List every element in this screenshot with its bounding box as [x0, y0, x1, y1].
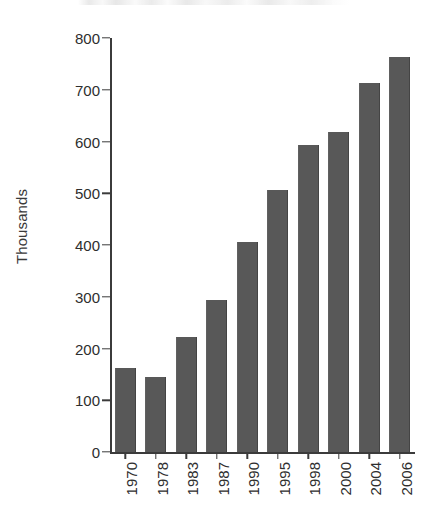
x-tick-label: 1990	[245, 462, 262, 495]
y-tick-label: 100	[75, 392, 100, 409]
bar	[267, 190, 288, 452]
x-tick-label: 1970	[123, 462, 140, 495]
x-tick-label: 2000	[336, 462, 353, 495]
x-tick-mark	[308, 453, 309, 459]
y-tick-mark	[102, 141, 110, 142]
x-tick-mark	[125, 453, 126, 459]
y-tick-mark	[102, 89, 110, 90]
x-tick-mark	[186, 453, 187, 459]
y-axis-tick-labels: 0100200300400500600700800	[44, 0, 104, 513]
bar	[389, 57, 410, 452]
y-tick-label: 500	[75, 185, 100, 202]
bar	[176, 337, 197, 452]
y-axis-title: Thousands	[0, 0, 44, 452]
bar	[359, 83, 380, 452]
y-tick-mark	[102, 348, 110, 349]
x-axis-tick-labels: 1970197819831987199019951998200020042006	[110, 462, 415, 513]
y-tick-label: 300	[75, 288, 100, 305]
x-tick-mark	[338, 453, 339, 459]
x-tick-mark	[369, 453, 370, 459]
x-tick-label: 1987	[214, 462, 231, 495]
x-tick-label: 1998	[306, 462, 323, 495]
y-tick-label: 200	[75, 340, 100, 357]
y-tick-label: 0	[92, 444, 100, 461]
y-tick-mark	[102, 37, 110, 38]
x-tick-label: 1995	[275, 462, 292, 495]
y-tick-label: 800	[75, 30, 100, 47]
y-tick-label: 600	[75, 133, 100, 150]
x-tick-mark	[216, 453, 217, 459]
x-tick-mark	[155, 453, 156, 459]
x-tick-label: 1983	[184, 462, 201, 495]
x-tick-mark	[277, 453, 278, 459]
bar-chart-figure: Thousands 0100200300400500600700800 1970…	[0, 0, 428, 513]
x-tick-label: 2006	[397, 462, 414, 495]
bar	[206, 300, 227, 452]
plot-area	[110, 38, 415, 452]
x-tick-mark	[399, 453, 400, 459]
bar	[328, 132, 349, 452]
y-tick-label: 700	[75, 81, 100, 98]
y-axis-title-label: Thousands	[14, 188, 31, 263]
y-tick-mark	[102, 296, 110, 297]
x-tick-label: 2004	[367, 462, 384, 495]
bar	[298, 145, 319, 452]
y-tick-mark	[102, 193, 110, 194]
y-tick-mark	[102, 451, 110, 452]
bar	[115, 368, 136, 452]
x-tick-label: 1978	[153, 462, 170, 495]
bar	[237, 242, 258, 452]
x-tick-mark	[247, 453, 248, 459]
bar	[145, 377, 166, 452]
y-tick-label: 400	[75, 237, 100, 254]
y-tick-mark	[102, 400, 110, 401]
y-tick-mark	[102, 244, 110, 245]
